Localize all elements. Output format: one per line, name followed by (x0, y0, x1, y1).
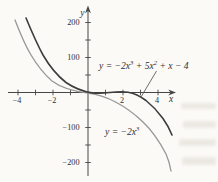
x-tick-label: 4 (155, 96, 159, 105)
y-tick-label: 100 (67, 53, 79, 62)
x-tick-label: −2 (48, 96, 57, 105)
eq-simple-part1: y = −2x (104, 126, 137, 137)
x-axis-label: x (168, 94, 174, 104)
curve-simple-cubic (15, 20, 171, 171)
scan-artifact (182, 157, 216, 165)
scan-artifact (181, 103, 216, 109)
leader-line (141, 71, 157, 97)
eq-full-part3: + x − 4 (157, 60, 189, 71)
x-tick-label: 2 (120, 96, 124, 105)
scan-artifact (183, 121, 216, 128)
y-tick-label: −200 (63, 158, 80, 167)
plot-svg: −4−224200100−100−200 y = −2x3 + 5x2 + x … (0, 0, 218, 182)
y-tick-label: 200 (67, 18, 79, 27)
x-tick-label: −4 (13, 96, 22, 105)
label-full-cubic-equation: y = −2x3 + 5x2 + x − 4 (98, 59, 189, 70)
eq-simple-exp1: 3 (135, 125, 140, 132)
graph-figure: −4−224200100−100−200 y = −2x3 + 5x2 + x … (0, 0, 218, 182)
axes (8, 6, 176, 177)
y-tick-label: −100 (63, 123, 80, 132)
eq-full-part2: + 5x (133, 60, 154, 71)
curves (15, 18, 172, 171)
label-simple-cubic-equation: y = −2x3 (104, 125, 140, 136)
eq-full-part1: y = −2x (98, 60, 131, 71)
y-axis-label: y (79, 8, 85, 18)
scan-artifact (179, 139, 216, 146)
